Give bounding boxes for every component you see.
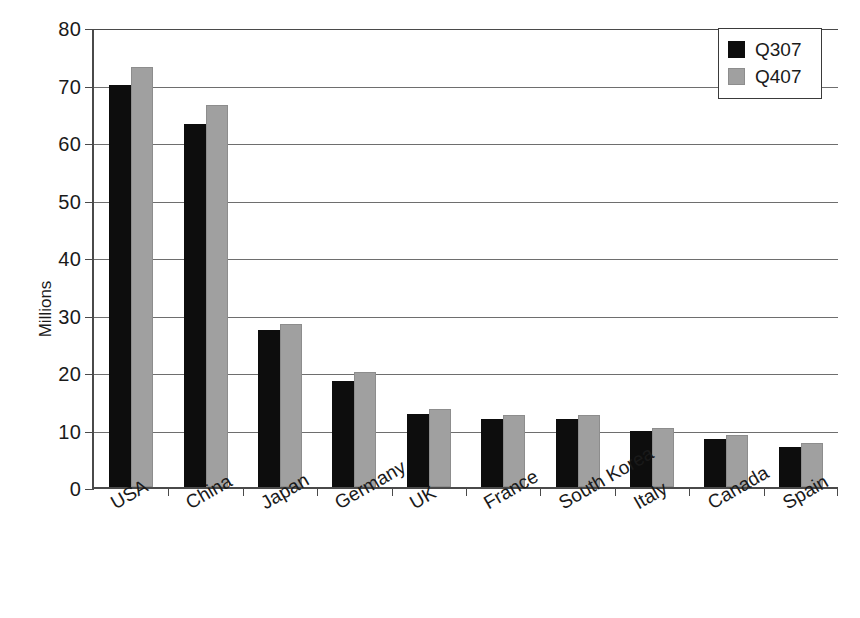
y-axis-tick — [85, 259, 94, 260]
bar-q307-japan — [258, 330, 280, 487]
y-axis-title: Millions — [36, 281, 56, 338]
bar-q307-south-korea — [556, 419, 578, 487]
y-axis-tick-label: 30 — [58, 305, 81, 328]
y-axis-tick — [85, 202, 94, 203]
legend-label-q307: Q307 — [755, 40, 801, 59]
gray-swatch-icon — [728, 68, 745, 85]
legend: Q307 Q407 — [718, 28, 822, 99]
y-axis-tick — [85, 87, 94, 88]
bar-group — [615, 29, 689, 487]
legend-label-q407: Q407 — [755, 67, 801, 86]
y-axis-tick — [85, 144, 94, 145]
y-axis-tick-label: 50 — [58, 190, 81, 213]
y-axis-tick — [85, 432, 94, 433]
bar-q307-china — [184, 124, 206, 487]
bar-q307-usa — [109, 85, 131, 488]
y-axis-tick-label: 40 — [58, 248, 81, 271]
bar-q307-spain — [779, 447, 801, 487]
bar-q307-france — [481, 419, 503, 487]
y-axis-tick — [85, 489, 94, 490]
bar-group — [243, 29, 317, 487]
bar-q307-germany — [332, 381, 354, 487]
plot-area: 01020304050607080 Q307 Q407 — [92, 29, 838, 489]
y-axis-tick-label: 80 — [58, 18, 81, 41]
bar-group — [94, 29, 168, 487]
y-axis-tick — [85, 317, 94, 318]
y-axis-tick — [85, 374, 94, 375]
bar-q407-usa — [131, 67, 153, 487]
bar-group — [466, 29, 540, 487]
legend-entry-q407: Q407 — [728, 63, 812, 90]
bar-group — [392, 29, 466, 487]
legend-entry-q307: Q307 — [728, 36, 812, 63]
bar-group — [540, 29, 614, 487]
y-axis-tick-label: 0 — [70, 478, 81, 501]
bar-q307-uk — [407, 414, 429, 487]
y-axis-tick-label: 70 — [58, 75, 81, 98]
bar-group — [168, 29, 242, 487]
x-axis-labels: USAChinaJapanGermanyUKFranceSouth KoreaI… — [92, 495, 838, 590]
y-axis-tick-label: 20 — [58, 363, 81, 386]
bar-chart: Millions 01020304050607080 Q307 Q407 USA… — [0, 0, 860, 618]
scan-artifact — [0, 604, 860, 618]
black-swatch-icon — [728, 41, 745, 58]
bar-q407-japan — [280, 324, 302, 487]
y-axis-tick-label: 60 — [58, 133, 81, 156]
y-axis-tick — [85, 29, 94, 30]
bar-q407-uk — [429, 409, 451, 487]
y-axis-tick-label: 10 — [58, 420, 81, 443]
bar-group — [317, 29, 391, 487]
bar-q307-canada — [704, 439, 726, 487]
bar-q407-china — [206, 105, 228, 487]
